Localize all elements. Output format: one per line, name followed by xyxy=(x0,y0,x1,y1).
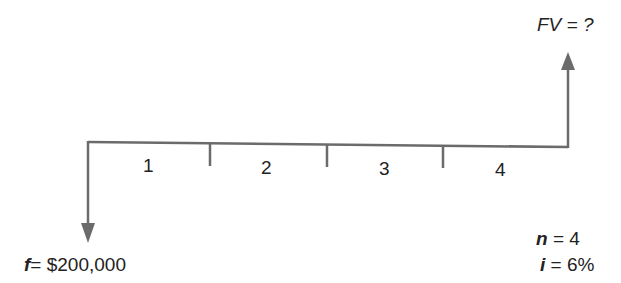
f-equation: = $200,000 xyxy=(30,254,126,275)
period-label-1: 1 xyxy=(143,155,154,177)
timeline-diagram xyxy=(0,0,621,283)
period-label-2: 2 xyxy=(261,157,272,179)
future-value-label: FV = ? xyxy=(537,14,594,36)
i-param-label: i = 6% xyxy=(540,254,594,276)
period-label-3: 3 xyxy=(379,158,390,180)
present-value-label: f= $200,000 xyxy=(24,254,126,276)
arrow-down-icon xyxy=(81,223,95,243)
n-param-label: n = 4 xyxy=(536,228,580,250)
arrow-up-icon xyxy=(561,52,575,70)
n-variable: n xyxy=(536,228,548,249)
i-equation: = 6% xyxy=(551,254,595,275)
fv-equation: = ? xyxy=(567,14,594,35)
i-variable: i xyxy=(540,254,545,275)
fv-variable: FV xyxy=(537,14,561,35)
period-label-4: 4 xyxy=(495,159,506,181)
n-equation: = 4 xyxy=(553,228,580,249)
